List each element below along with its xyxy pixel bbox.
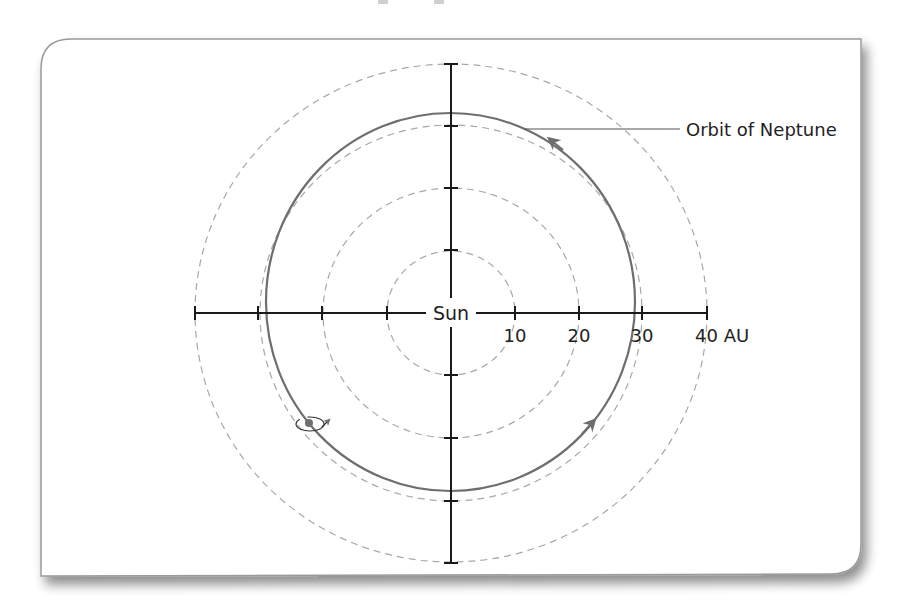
sun-label: Sun bbox=[433, 302, 469, 324]
orbit-figure: Sun 10 20 30 40 AU Orbit of Neptune bbox=[0, 0, 908, 616]
tick-label-20: 20 bbox=[568, 325, 591, 346]
tick-label-30: 30 bbox=[631, 325, 654, 346]
neptune-icon bbox=[305, 419, 313, 427]
orbit-label: Orbit of Neptune bbox=[686, 119, 837, 140]
tick-label-10: 10 bbox=[504, 325, 527, 346]
cropped-caption-fragment bbox=[378, 0, 444, 4]
tick-label-40: 40 AU bbox=[695, 325, 749, 346]
